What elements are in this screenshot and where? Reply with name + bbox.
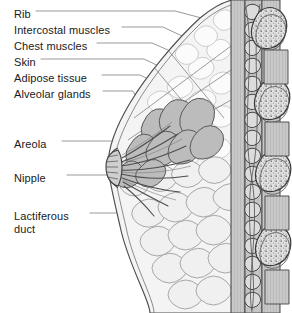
label-chest-muscles: Chest muscles [14, 40, 87, 53]
label-areola: Areola [14, 138, 46, 151]
anatomy-figure: Rib Intercostal muscles Chest muscles Sk… [0, 0, 292, 313]
label-lactiferous-duct-line1: Lactiferous [14, 210, 69, 223]
label-skin: Skin [14, 56, 36, 69]
label-intercostal-muscles: Intercostal muscles [14, 24, 110, 37]
label-nipple: Nipple [14, 172, 46, 185]
label-rib: Rib [14, 8, 31, 21]
label-alveolar-glands: Alveolar glands [14, 88, 91, 101]
chest-muscles [231, 0, 245, 313]
label-adipose-tissue: Adipose tissue [14, 72, 87, 85]
label-lactiferous-duct-line2: duct [14, 223, 35, 236]
